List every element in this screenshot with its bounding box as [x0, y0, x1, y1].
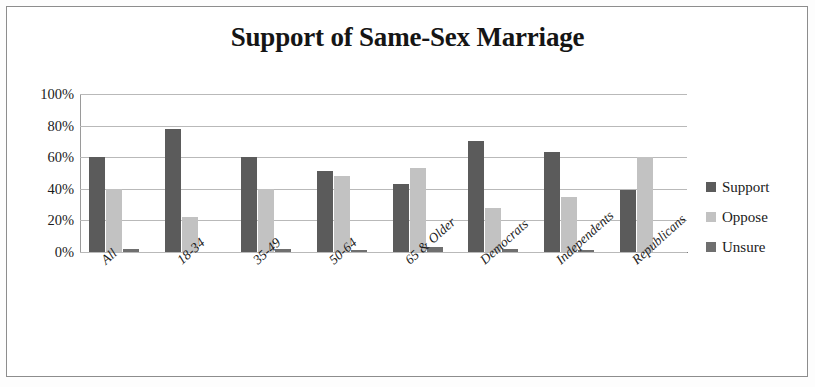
bar-support-35-49[interactable] — [241, 157, 257, 252]
bar-support-18-34[interactable] — [165, 129, 181, 252]
bar-support-democrats[interactable] — [468, 141, 484, 252]
y-axis: 0%20%40%60%80%100% — [4, 94, 74, 252]
bar-support-50-64[interactable] — [317, 171, 333, 252]
y-tick-label: 20% — [8, 213, 74, 228]
bar-group — [317, 94, 367, 252]
legend-item-support[interactable]: Support — [706, 172, 770, 202]
legend-item-oppose[interactable]: Oppose — [706, 202, 770, 232]
bar-support-65-older[interactable] — [393, 184, 409, 252]
bar-group — [165, 94, 215, 252]
y-tick-label: 60% — [8, 150, 74, 165]
legend-label: Support — [722, 180, 770, 195]
bar-support-independents[interactable] — [544, 152, 560, 252]
gridline — [80, 252, 687, 253]
bar-group — [241, 94, 291, 252]
y-tick-label: 40% — [8, 182, 74, 197]
chart-legend: SupportOpposeUnsure — [706, 172, 770, 262]
y-tick-label: 100% — [8, 87, 74, 102]
chart-figure: Support of Same-Sex Marriage 0%20%40%60%… — [0, 0, 815, 387]
legend-swatch-icon — [706, 182, 716, 192]
bar-oppose-all[interactable] — [106, 189, 122, 252]
bar-support-all[interactable] — [89, 157, 105, 252]
chart-title: Support of Same-Sex Marriage — [0, 22, 815, 53]
bar-unsure-all[interactable] — [123, 249, 139, 252]
bar-support-republicans[interactable] — [620, 190, 636, 252]
y-tick-label: 0% — [8, 245, 74, 260]
legend-label: Oppose — [722, 210, 768, 225]
legend-label: Unsure — [722, 240, 765, 255]
legend-swatch-icon — [706, 212, 716, 222]
legend-swatch-icon — [706, 242, 716, 252]
legend-item-unsure[interactable]: Unsure — [706, 232, 770, 262]
bar-group — [89, 94, 139, 252]
y-tick-label: 80% — [8, 119, 74, 134]
